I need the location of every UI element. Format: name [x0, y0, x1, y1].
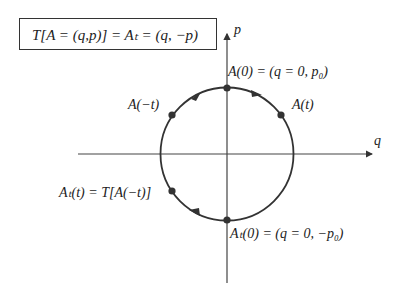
q-axis-label: q — [374, 134, 381, 148]
label-At: A(t) — [292, 98, 314, 112]
formula-text: T[A = (q,p)] = Aₜ = (q, −p) — [32, 26, 198, 44]
label-A-minus-t: A(−t) — [128, 98, 159, 112]
label-AT-t: Aₜ(t) = T[A(−t)] — [59, 186, 151, 200]
label-AT0: Aₜ(0) = (q = 0, −p₀) — [230, 227, 343, 241]
label-A0: A(0) = (q = 0, p₀) — [228, 65, 328, 79]
point-A0 — [223, 84, 230, 91]
point-At — [277, 111, 284, 118]
point-AT-t — [168, 187, 175, 194]
point-A-minus-t — [168, 111, 175, 118]
p-axis-label: p — [234, 23, 241, 37]
point-AT0 — [223, 216, 230, 223]
